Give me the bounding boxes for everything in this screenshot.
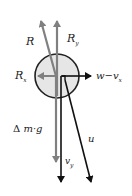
label-ry: Ry (67, 33, 79, 46)
label-rx: Rx (15, 70, 27, 83)
label-w-minus-vx: w−vx (96, 71, 122, 83)
label-u: u (88, 134, 94, 144)
label-r: R (26, 36, 34, 47)
label-vy: vy (65, 157, 73, 168)
label-delta-mg: Δ m·g (13, 124, 42, 134)
